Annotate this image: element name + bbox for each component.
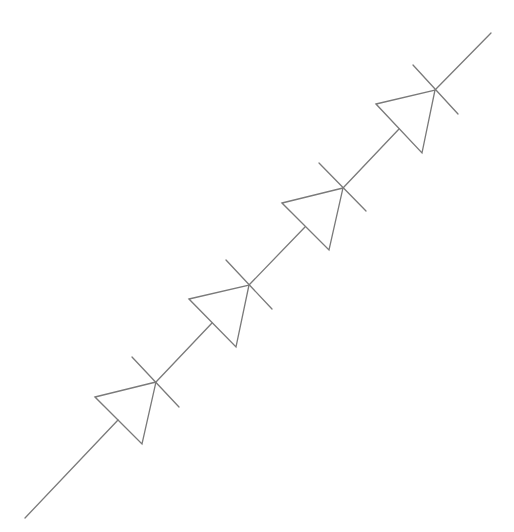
diode-cathode-bar-icon [413,65,458,114]
wire-segment [343,129,399,188]
diode-cathode-bar-icon [319,163,366,211]
diodes [95,65,458,444]
wire-segment [435,33,491,90]
wires [25,33,491,518]
wire-segment [25,420,118,518]
diode-cathode-bar-icon [226,260,272,309]
wire-segment [156,323,212,382]
wire-segment [249,227,305,285]
diode-chain-diagram [0,0,514,532]
